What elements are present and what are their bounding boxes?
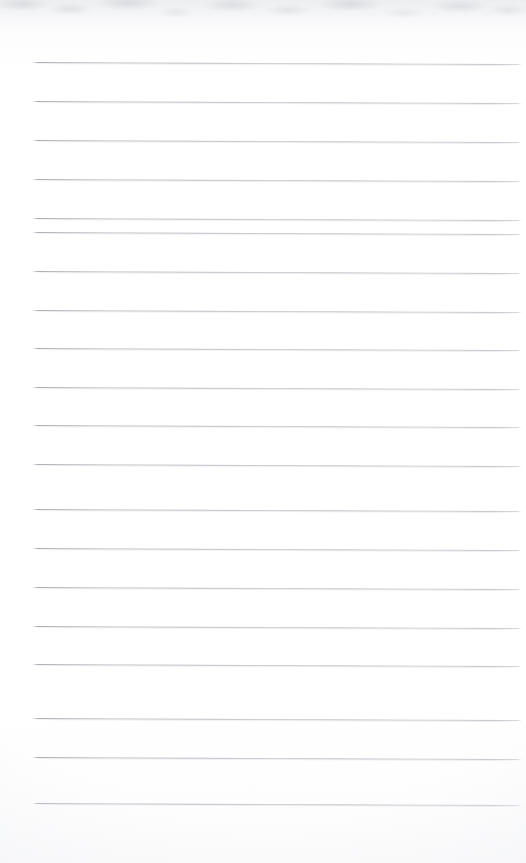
ruled-line <box>32 718 522 721</box>
ruled-line <box>32 548 522 551</box>
ruled-line <box>32 803 522 806</box>
ruled-line <box>32 218 522 221</box>
ruled-line <box>32 348 522 351</box>
ruled-line <box>32 664 522 667</box>
ruled-line <box>32 509 522 512</box>
ruled-line <box>32 757 522 760</box>
ruled-line <box>32 626 522 629</box>
ruled-line <box>32 101 522 104</box>
scanned-notepad-page <box>0 0 526 863</box>
ruled-line <box>32 587 522 590</box>
ruled-line <box>32 464 522 467</box>
ruled-line <box>32 425 522 428</box>
ruled-lines-layer <box>0 0 526 863</box>
ruled-line <box>32 140 522 143</box>
ruled-line <box>32 271 522 274</box>
ruled-line <box>32 62 522 65</box>
ruled-line <box>32 310 522 313</box>
ruled-line <box>32 232 522 235</box>
ruled-line <box>32 179 522 182</box>
ruled-line <box>32 387 522 390</box>
